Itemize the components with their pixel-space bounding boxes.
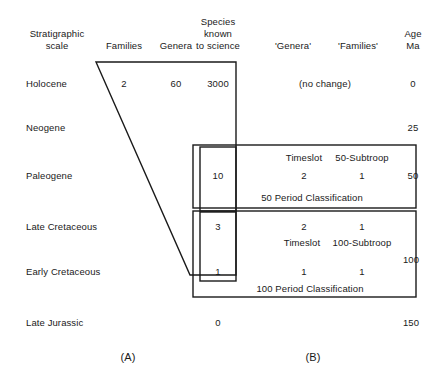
header-stratigraphic-scale-line2: scale	[46, 40, 69, 52]
box100-value-genera: 1	[301, 266, 306, 278]
row-stage-paleogene: Paleogene	[26, 170, 72, 182]
panel-a-label: (A)	[121, 352, 136, 364]
header-species-line3: to science	[196, 40, 240, 52]
row-stage-late-jurassic: Late Jurassic	[26, 317, 83, 329]
header-genera: Genera	[160, 40, 192, 52]
header-species-line1: Species	[201, 16, 236, 28]
box50-header-genera: Timeslot	[286, 152, 322, 164]
box50-header-families: 50-Subtroop	[335, 152, 388, 164]
panel-b-label: (B)	[306, 352, 321, 364]
box100-value-families: 1	[359, 266, 364, 278]
box100-header-genera: Timeslot	[284, 237, 320, 249]
header-families-quoted: 'Families'	[338, 40, 378, 52]
box100-caption: 100 Period Classification	[256, 283, 363, 295]
row-stage-early-cretaceous: Early Cretaceous	[26, 266, 100, 278]
row-age-neogene: 25	[408, 122, 419, 134]
row-species-holocene: 3000	[207, 78, 229, 90]
row-stage-late-cretaceous: Late Cretaceous	[26, 221, 97, 233]
row-species-paleogene: 10	[213, 170, 224, 182]
box50-caption: 50 Period Classification	[261, 192, 363, 204]
row-species-late-cretaceous: 3	[215, 221, 220, 233]
row-age-late-jurassic: 150	[403, 317, 419, 329]
header-families: Families	[106, 40, 142, 52]
row-families-holocene: 2	[121, 78, 126, 90]
box50-value-families: 1	[359, 170, 364, 182]
header-species-line2: known	[204, 28, 232, 40]
taxonomy-trapezoid	[96, 62, 236, 275]
row-genera-holocene: 60	[171, 78, 182, 90]
header-genera-quoted: 'Genera'	[275, 40, 311, 52]
row-species-late-jurassic: 0	[215, 317, 220, 329]
row-stage-neogene: Neogene	[26, 122, 65, 134]
box100-top-value-families: 1	[359, 221, 364, 233]
box100-top-value-genera: 2	[301, 221, 306, 233]
header-stratigraphic-scale-line1: Stratigraphic	[30, 28, 85, 40]
header-age-line1: Age	[404, 28, 421, 40]
row-species-early-cretaceous: 1	[215, 266, 220, 278]
row-stage-holocene: Holocene	[26, 78, 67, 90]
row-age-holocene: 0	[410, 78, 415, 90]
figure-root: Stratigraphic scale Families Genera Spec…	[0, 0, 437, 378]
row-age-early-cretaceous: 100	[403, 254, 419, 266]
box50-value-genera: 2	[301, 170, 306, 182]
row-age-paleogene: 50	[408, 170, 419, 182]
header-age-line2: Ma	[406, 40, 419, 52]
panel-b-holocene-note: (no change)	[299, 78, 351, 90]
box100-header-families: 100-Subtroop	[333, 237, 392, 249]
